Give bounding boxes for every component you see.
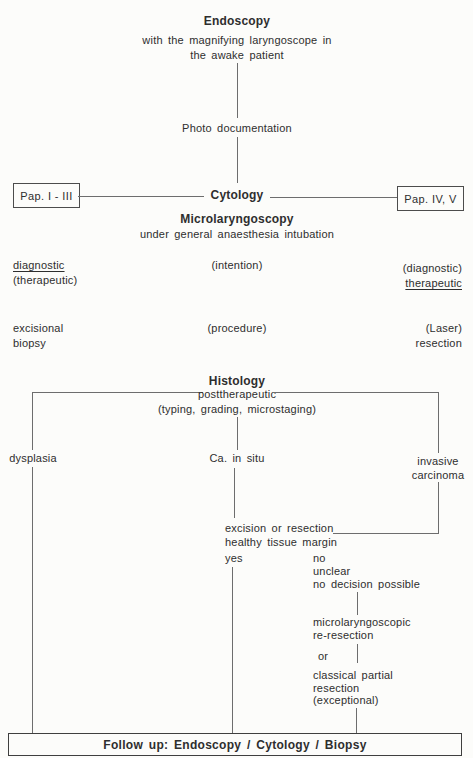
connector-no-reresection [357, 592, 358, 615]
decision-no-decision-label: no decision possible [313, 578, 420, 590]
decision-no-label: no [313, 552, 326, 564]
connector-left-branch-drop [32, 392, 33, 450]
reresection-line-1: microlaryngoscopic [313, 616, 411, 628]
followup-label: Follow up: Endoscopy / Cytology / Biopsy [103, 738, 366, 752]
connector-photo-cytology [237, 137, 238, 183]
branch-carcinoma-label: carcinoma [412, 469, 465, 481]
connector-yes-followup [232, 567, 233, 734]
connector-histology-right-arm [272, 392, 438, 393]
classical-partial-line-2: resection [313, 682, 359, 694]
endoscopy-subtitle-1: with the magnifying laryngoscope in [142, 34, 331, 46]
connector-cytology-papbox-right [270, 197, 397, 198]
decision-yes-label: yes [225, 552, 243, 564]
microlaryngoscopy-subtitle: under general anaesthesia intubation [140, 228, 334, 240]
connector-reresection-or [357, 644, 358, 663]
connector-center-branch-drop [237, 417, 238, 450]
connector-casitu-decision [234, 468, 235, 518]
histology-typing-grading: (typing, grading, microstaging) [158, 403, 316, 415]
decision-line-2: healthy tissue margin [225, 536, 337, 548]
connector-right-branch-drop [438, 392, 439, 453]
branch-ca-in-situ-label: Ca. in situ [209, 452, 264, 464]
connector-classical-followup [356, 708, 357, 734]
pap-i-iii-label: Pap. I - III [20, 190, 73, 202]
connector-carcinoma-drop [438, 482, 439, 533]
procedure-left-biopsy: biopsy [13, 337, 46, 349]
decision-line-1: excision or resection [225, 522, 333, 534]
connector-endoscopy-photo [237, 63, 238, 118]
pap-i-iii-box: Pap. I - III [13, 183, 80, 208]
cytology-label: Cytology [211, 189, 264, 201]
classical-partial-line-1: classical partial [313, 669, 393, 681]
or-label: or [318, 650, 328, 662]
branch-invasive-label: invasive [417, 455, 458, 467]
reresection-line-2: re-resection [313, 629, 373, 641]
intention-center-label: (intention) [211, 259, 262, 271]
intention-right-diagnostic: (diagnostic) [403, 262, 462, 274]
endoscopy-subtitle-2: the awake patient [190, 49, 284, 61]
decision-unclear-label: unclear [313, 565, 350, 577]
followup-box: Follow up: Endoscopy / Cytology / Biopsy [8, 733, 462, 756]
photo-documentation-label: Photo documentation [182, 122, 292, 134]
branch-dysplasia-label: dysplasia [9, 452, 57, 464]
connector-dysplasia-followup [32, 467, 33, 734]
histology-title: Histology [209, 375, 265, 387]
connector-papbox-left-cytology [78, 196, 204, 197]
intention-right-therapeutic: therapeutic [405, 277, 462, 289]
endoscopy-title: Endoscopy [204, 15, 270, 27]
microlaryngoscopy-title: Microlaryngoscopy [180, 213, 293, 225]
connector-carcinoma-elbow [333, 533, 439, 534]
classical-partial-line-3: (exceptional) [313, 694, 379, 706]
procedure-right-laser: (Laser) [426, 322, 462, 334]
procedure-center-label: (procedure) [207, 322, 266, 334]
intention-left-diagnostic: diagnostic [13, 259, 65, 271]
intention-left-therapeutic: (therapeutic) [13, 274, 77, 286]
connector-histology-left-arm [33, 392, 203, 393]
procedure-left-excisional: excisional [13, 322, 63, 334]
flowchart-page: Endoscopy with the magnifying laryngosco… [0, 0, 473, 758]
procedure-right-resection: resection [416, 337, 462, 349]
pap-iv-v-box: Pap. IV, V [397, 186, 464, 211]
pap-iv-v-label: Pap. IV, V [404, 193, 457, 205]
histology-posttherapeutic: posttherapeutic [198, 388, 276, 400]
